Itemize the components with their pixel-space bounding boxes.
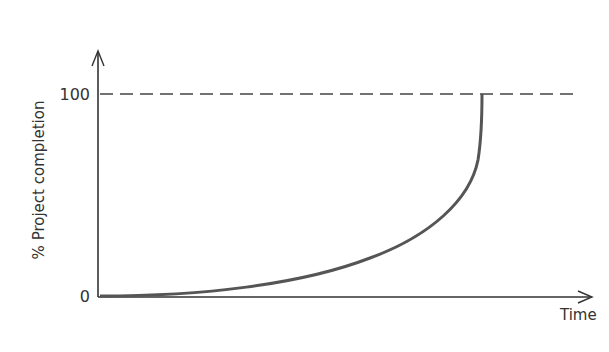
y-tick-100: 100 <box>59 85 90 104</box>
completion-curve <box>100 94 482 296</box>
y-tick-0: 0 <box>80 287 90 306</box>
x-axis-label: Time <box>559 306 597 324</box>
completion-chart: 100 0 Time % Project completion <box>0 0 609 352</box>
y-axis-label: % Project completion <box>30 101 48 260</box>
